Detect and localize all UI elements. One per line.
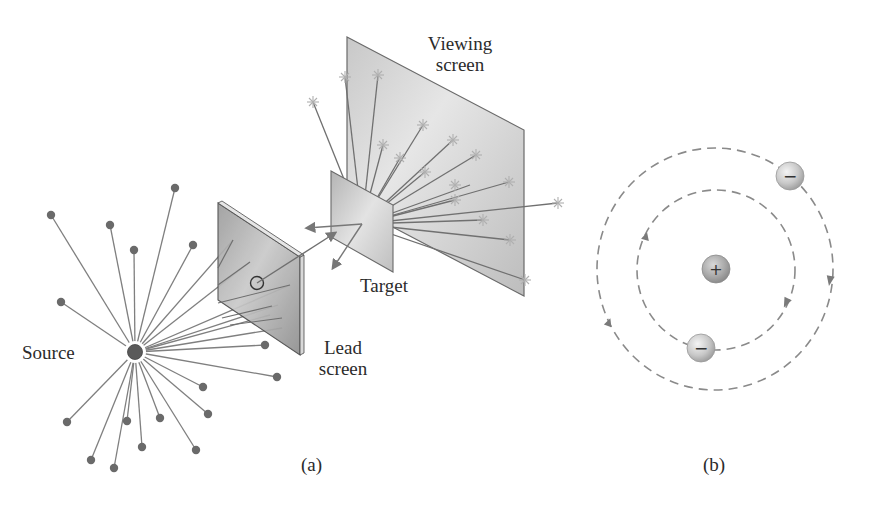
panel-a-caption: (a)	[301, 454, 322, 475]
target-label: Target	[360, 275, 408, 296]
panel-b: + − −	[597, 148, 835, 390]
panel-b-caption: (b)	[703, 454, 725, 475]
radioactive-source	[124, 341, 146, 363]
inner-electron: −	[687, 334, 715, 362]
rutherford-scattering-figure: + − − Source Lead screen Target Viewing …	[0, 0, 874, 511]
lead-screen-label: Lead screen	[313, 337, 373, 379]
viewing-screen-label-line2: screen	[420, 54, 500, 75]
outer-electron: −	[776, 162, 804, 190]
viewing-screen-label-line1: Viewing	[420, 33, 500, 54]
lead-screen-label-line1: Lead	[313, 337, 373, 358]
lead-screen-label-line2: screen	[313, 358, 373, 379]
nucleus: +	[702, 255, 730, 283]
viewing-screen-label: Viewing screen	[420, 33, 500, 75]
figure-canvas: + − −	[0, 0, 874, 511]
electron-minus-sign: −	[783, 166, 797, 186]
nucleus-plus-sign: +	[709, 260, 722, 279]
electron-minus-sign: −	[694, 338, 708, 358]
panel-a	[47, 37, 564, 472]
source-label: Source	[22, 342, 75, 363]
